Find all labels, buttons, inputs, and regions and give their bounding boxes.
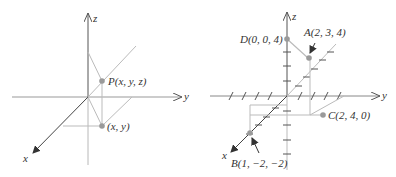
right-x-axis	[231, 96, 287, 152]
left-label-P: P(x, y, z)	[107, 75, 147, 88]
right-diagram: z y x D(0, 0, 4) A(2, 3, 4) C(2, 4, 0) B…	[210, 10, 387, 170]
right-label-D: D(0, 0, 4)	[239, 33, 283, 46]
left-diagram: z y x P(x, y, z) (x, y)	[12, 12, 189, 165]
left-label-y: y	[183, 90, 189, 102]
left-label-xy: (x, y)	[107, 120, 130, 133]
right-arrow-A	[310, 43, 315, 53]
right-guide-D-to-A	[287, 39, 308, 58]
left-label-z: z	[92, 12, 98, 24]
left-point-P	[99, 78, 105, 84]
left-guide-z-to-P	[88, 52, 102, 81]
left-x-axis-back	[88, 46, 136, 97]
left-point-xy	[99, 123, 105, 129]
right-label-y: y	[381, 89, 387, 101]
right-label-B: B(1, −2, −2)	[231, 157, 288, 170]
right-point-C	[320, 112, 326, 118]
right-label-x: x	[221, 149, 227, 161]
right-point-B	[247, 130, 253, 136]
right-label-z: z	[291, 10, 297, 22]
right-point-A	[306, 55, 312, 61]
left-x-axis	[33, 97, 88, 153]
right-arrow-B	[252, 138, 259, 153]
right-point-D	[284, 36, 290, 42]
right-label-C: C(2, 4, 0)	[328, 109, 371, 122]
left-guide-origin-to-xy	[88, 97, 102, 126]
right-label-A: A(2, 3, 4)	[303, 26, 346, 39]
left-label-x: x	[22, 152, 28, 164]
diagram-canvas: z y x P(x, y, z) (x, y)	[0, 0, 396, 177]
